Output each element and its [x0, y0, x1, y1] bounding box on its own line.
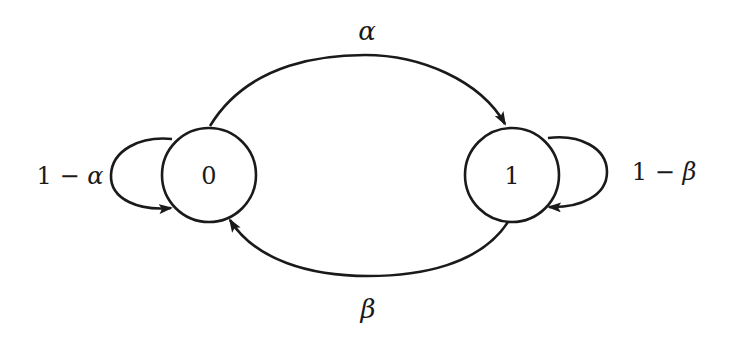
- self-loop-0-label: 1 − α: [37, 162, 104, 190]
- self-loop-1-prefix: 1 −: [632, 158, 683, 186]
- self-loop-1-var: β: [681, 158, 696, 186]
- state-1-label: 1: [504, 162, 519, 190]
- beta-label: β: [359, 294, 375, 324]
- transition-1-to-0-arc: [230, 220, 508, 276]
- state-0-label: 0: [201, 162, 216, 190]
- markov-chain-diagram: 0 1 α β 1 − α 1 − β: [0, 0, 730, 338]
- self-loop-1-label: 1 − β: [632, 158, 697, 186]
- self-loop-0-var: α: [87, 162, 103, 190]
- state-1-node: 1: [465, 128, 559, 222]
- self-loop-0-prefix: 1 −: [37, 162, 88, 190]
- state-0-node: 0: [162, 128, 256, 222]
- transition-0-to-1-arc: [210, 55, 505, 126]
- alpha-label: α: [358, 16, 376, 46]
